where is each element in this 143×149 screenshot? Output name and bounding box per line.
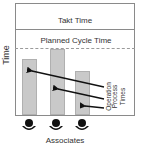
- op-label-line-3: Times: [119, 88, 126, 105]
- person-icon: [74, 119, 90, 133]
- arrow-2: [58, 89, 104, 99]
- operation-process-times-label: Operation Process Times: [100, 82, 142, 112]
- person-icon: [21, 119, 37, 133]
- arrow-1: [32, 71, 104, 87]
- person-icon: [48, 119, 64, 133]
- x-axis-label: Associates: [20, 136, 110, 145]
- op-label-line-2: Process: [111, 85, 118, 108]
